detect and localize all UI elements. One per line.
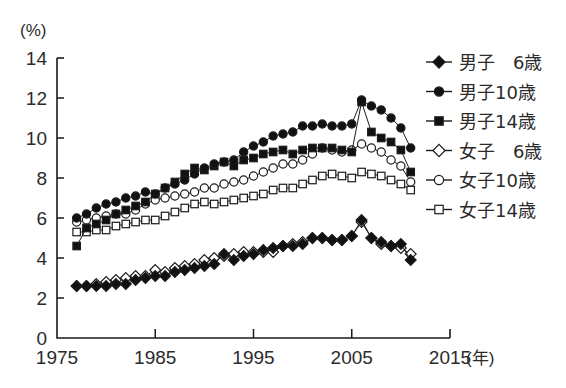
data-point-marker xyxy=(309,144,316,151)
data-point-marker xyxy=(368,128,375,135)
data-point-marker xyxy=(230,156,238,164)
y-tick-label: 8 xyxy=(36,168,47,189)
data-point-marker xyxy=(210,160,218,168)
data-point-marker xyxy=(181,204,188,211)
data-point-marker xyxy=(299,180,306,187)
data-point-marker xyxy=(82,210,90,218)
data-point-marker xyxy=(92,204,100,212)
data-point-marker xyxy=(122,194,130,202)
data-point-marker xyxy=(357,96,365,104)
data-point-marker xyxy=(151,190,159,198)
data-point-marker xyxy=(269,132,277,140)
data-point-marker xyxy=(152,216,159,223)
data-point-marker xyxy=(377,134,384,141)
x-axis-unit-text: (年) xyxy=(466,349,494,368)
data-point-marker xyxy=(171,180,179,188)
data-point-marker xyxy=(328,122,336,130)
data-point-marker xyxy=(102,226,109,233)
data-point-marker xyxy=(190,170,198,178)
data-point-marker xyxy=(161,212,168,219)
data-point-marker xyxy=(279,146,286,153)
data-point-marker xyxy=(308,122,316,130)
data-point-marker xyxy=(161,194,169,202)
data-point-marker xyxy=(171,192,179,200)
data-point-marker xyxy=(249,172,257,180)
legend-label: 男子14歳 xyxy=(459,111,536,132)
data-point-marker xyxy=(289,184,296,191)
data-point-marker xyxy=(338,172,345,179)
data-point-marker xyxy=(407,168,414,175)
data-point-marker xyxy=(93,220,100,227)
data-point-marker xyxy=(397,146,404,153)
data-point-marker xyxy=(190,188,198,196)
data-point-marker xyxy=(201,198,208,205)
data-point-marker xyxy=(259,168,267,176)
data-point-marker xyxy=(407,186,414,193)
data-point-marker xyxy=(397,124,405,132)
data-point-marker xyxy=(83,224,90,231)
y-tick-label: 0 xyxy=(36,328,47,349)
y-tick-label: 2 xyxy=(36,288,47,309)
y-tick-label: 6 xyxy=(36,208,47,229)
legend-marker-icon xyxy=(434,175,443,184)
data-point-marker xyxy=(112,210,119,217)
y-tick-label: 10 xyxy=(26,128,47,149)
data-point-marker xyxy=(397,162,405,170)
data-point-marker xyxy=(102,216,109,223)
data-point-marker xyxy=(338,146,345,153)
data-point-marker xyxy=(249,142,257,150)
y-tick-label: 12 xyxy=(26,88,47,109)
data-point-marker xyxy=(260,190,267,197)
data-point-marker xyxy=(318,120,326,128)
x-axis-unit-label: (年) xyxy=(466,349,494,368)
data-point-marker xyxy=(289,150,296,157)
data-point-marker xyxy=(200,164,208,172)
data-point-marker xyxy=(348,148,355,155)
y-tick-label: 14 xyxy=(26,48,48,69)
data-point-marker xyxy=(230,178,238,186)
legend-label: 女子14歳 xyxy=(459,200,536,221)
data-point-marker xyxy=(407,178,415,186)
data-point-marker xyxy=(289,128,297,136)
data-point-marker xyxy=(387,176,394,183)
data-point-marker xyxy=(240,176,248,184)
data-point-marker xyxy=(377,148,385,156)
legend-marker-icon xyxy=(434,87,443,96)
legend-label: 男子10歳 xyxy=(459,82,536,103)
data-point-marker xyxy=(240,194,247,201)
data-point-marker xyxy=(112,198,120,206)
data-point-marker xyxy=(358,168,365,175)
data-point-marker xyxy=(181,176,189,184)
data-point-marker xyxy=(299,122,307,130)
data-point-marker xyxy=(191,200,198,207)
data-point-marker xyxy=(122,220,129,227)
data-point-marker xyxy=(328,144,335,151)
data-point-marker xyxy=(142,198,149,205)
data-point-marker xyxy=(259,138,267,146)
x-tick-label: 1995 xyxy=(232,347,274,368)
data-point-marker xyxy=(171,208,178,215)
data-point-marker xyxy=(269,164,277,172)
data-point-marker xyxy=(260,150,267,157)
data-point-marker xyxy=(102,200,110,208)
data-point-marker xyxy=(387,138,394,145)
data-point-marker xyxy=(377,106,385,114)
data-point-marker xyxy=(319,144,326,151)
data-point-marker xyxy=(240,156,247,163)
data-point-marker xyxy=(141,188,149,196)
data-point-marker xyxy=(367,102,375,110)
data-point-marker xyxy=(122,206,129,213)
data-point-marker xyxy=(377,172,384,179)
data-point-marker xyxy=(220,198,227,205)
y-tick-label: 4 xyxy=(36,248,47,269)
legend-label: 男子 6歳 xyxy=(459,52,542,73)
x-tick-label: 1985 xyxy=(134,347,176,368)
data-point-marker xyxy=(279,130,287,138)
legend-label: 女子 6歳 xyxy=(459,141,542,162)
data-point-marker xyxy=(220,158,228,166)
data-point-marker xyxy=(269,186,276,193)
data-point-marker xyxy=(132,202,139,209)
data-point-marker xyxy=(299,146,306,153)
data-point-marker xyxy=(387,114,395,122)
data-point-marker xyxy=(348,120,356,128)
